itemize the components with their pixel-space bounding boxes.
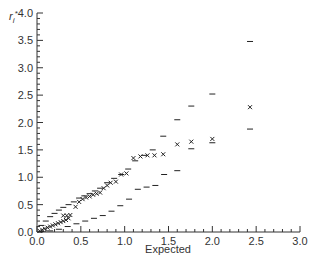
- x-marker: [95, 192, 99, 196]
- plot-area: [38, 41, 253, 232]
- y-tick-label: 1.5: [18, 144, 33, 156]
- upper_bound-series: [38, 41, 253, 225]
- x-tick-label: 3.0: [292, 235, 307, 247]
- x-marker: [210, 137, 214, 141]
- x-marker: [152, 153, 156, 157]
- x-marker: [124, 171, 128, 175]
- x-axis-label: Expected: [145, 243, 191, 255]
- x-marker: [175, 142, 179, 146]
- y-tick-label: 3.5: [18, 34, 33, 46]
- x-tick-label: 2.0: [205, 235, 220, 247]
- x-marker: [77, 200, 81, 204]
- x-marker: [74, 205, 78, 209]
- lower_bound-series: [38, 129, 253, 231]
- y-tick-label: 0.0: [18, 226, 33, 238]
- y-tick-label: 1.0: [18, 171, 33, 183]
- x-marker: [189, 140, 193, 144]
- x-tick-label: 1.0: [117, 235, 132, 247]
- y-tick-label: 2.0: [18, 117, 33, 129]
- x-marker: [161, 152, 165, 156]
- y-axis-label: ri*: [9, 9, 18, 25]
- x-tick-label: 0.5: [73, 235, 88, 247]
- x-marker: [114, 180, 118, 184]
- qq-plot: 0.00.51.01.52.02.53.00.00.51.01.52.02.53…: [0, 0, 312, 263]
- x-marker: [248, 105, 252, 109]
- y-tick-label: 4.0: [18, 7, 33, 19]
- axes: 0.00.51.01.52.02.53.00.00.51.01.52.02.53…: [18, 7, 308, 247]
- x-tick-label: 2.5: [249, 235, 264, 247]
- x-marker: [105, 183, 109, 187]
- y-tick-label: 3.0: [18, 62, 33, 74]
- y-tick-label: 2.5: [18, 89, 33, 101]
- x-marker: [98, 191, 102, 195]
- y-tick-label: 0.5: [18, 199, 33, 211]
- x-marker: [131, 156, 135, 160]
- observed-series: [38, 105, 252, 233]
